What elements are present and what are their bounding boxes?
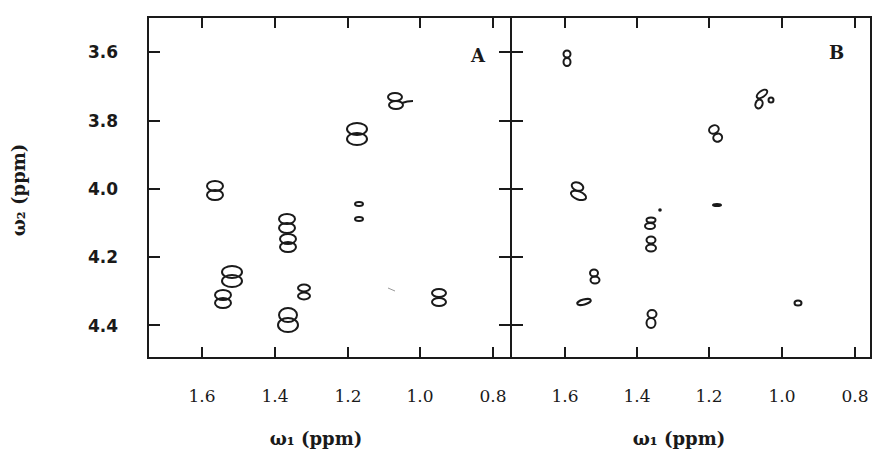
panel-a-label: A (470, 45, 486, 66)
y-tick-label: 3.8 (88, 111, 118, 131)
peak (432, 289, 446, 306)
y-tick-label: 4.2 (88, 247, 118, 267)
panel-b-frame (511, 17, 871, 358)
y-tick-label: 4.4 (88, 316, 118, 336)
panel-b-left-ticks (511, 52, 523, 325)
peak (645, 218, 656, 230)
peak (590, 270, 600, 284)
peak (355, 202, 363, 206)
panel-a-x-tick-labels: 1.6 1.4 1.2 1.0 0.8 (188, 386, 506, 406)
peak (347, 123, 367, 145)
panel-a-x-axis-title: ω₁ (ppm) (270, 428, 363, 449)
x-tick-label: 1.4 (623, 386, 650, 406)
peak (355, 217, 363, 221)
peak (708, 124, 724, 144)
peak (278, 308, 298, 332)
x-tick-label: 0.8 (841, 386, 868, 406)
panel-a-bottom-ticks (202, 347, 493, 358)
peak (712, 203, 722, 207)
peak (564, 51, 571, 67)
panel-b-x-tick-labels: 1.6 1.4 1.2 1.0 0.8 (551, 386, 868, 406)
panel-b-bottom-ticks (565, 347, 855, 358)
y-axis-title: ω₂ (ppm) (8, 144, 29, 237)
peak (647, 310, 657, 328)
panel-b-label: B (829, 42, 844, 63)
panel-a-top-ticks (202, 17, 493, 28)
panel-a-left-ticks (148, 52, 160, 325)
panel-a-right-ticks (499, 52, 511, 325)
x-tick-label: 1.0 (768, 386, 795, 406)
peak (207, 181, 223, 200)
peak (388, 93, 413, 109)
panel-a-peaks (207, 93, 446, 332)
y-tick-label: 3.6 (88, 42, 118, 62)
peak (658, 208, 662, 212)
peak (646, 237, 656, 252)
x-tick-label: 1.6 (188, 386, 215, 406)
x-tick-label: 1.2 (695, 386, 722, 406)
panel-a-frame (148, 17, 511, 358)
panel-b-peaks (564, 51, 802, 329)
x-tick-label: 1.4 (261, 386, 288, 406)
x-tick-label: 0.8 (479, 386, 506, 406)
peak (568, 181, 590, 202)
peak (298, 285, 310, 300)
x-tick-label: 1.6 (551, 386, 578, 406)
artifact-mark (388, 288, 395, 291)
panel-b-x-axis-title: ω₁ (ppm) (633, 428, 726, 449)
y-tick-labels: 3.6 3.8 4.0 4.2 4.4 (88, 42, 118, 336)
peak (754, 88, 773, 109)
panel-b: B (511, 17, 871, 358)
x-tick-label: 1.0 (406, 386, 433, 406)
peak (222, 266, 242, 287)
peak (279, 214, 295, 233)
nmr-figure: ω₂ (ppm) 3.6 3.8 4.0 4.2 4.4 (0, 0, 887, 468)
panel-a: A (148, 17, 511, 358)
peak (215, 290, 231, 308)
peak (577, 298, 592, 306)
x-tick-label: 1.2 (334, 386, 361, 406)
peak (795, 301, 802, 306)
panel-b-top-ticks (565, 17, 855, 28)
y-tick-label: 4.0 (88, 179, 118, 199)
peak (280, 234, 296, 252)
